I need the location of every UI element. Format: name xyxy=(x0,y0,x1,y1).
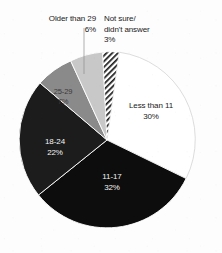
slice-label-not-sure-value: 3% xyxy=(104,35,184,46)
slice-label-less-than-11-value: 30% xyxy=(119,112,183,123)
slice-label-not-sure: Not sure/ didn't answer 3% xyxy=(104,14,184,46)
slice-label-not-sure-line2: didn't answer xyxy=(104,25,184,36)
slice-label-25-29: 25-29 7% xyxy=(43,87,83,106)
slice-label-not-sure-line1: Not sure/ xyxy=(104,14,136,23)
slice-label-11-17: 11-17 32% xyxy=(89,172,135,193)
slice-label-18-24-value: 22% xyxy=(32,148,78,159)
slice-label-less-than-11: Less than 11 30% xyxy=(119,101,183,122)
slice-label-25-29-name: 25-29 xyxy=(54,87,73,96)
pie-chart: Older than 29 6% Not sure/ didn't answer… xyxy=(0,0,222,253)
slice-label-older-than-29-name: Older than 29 xyxy=(49,14,96,23)
slice-label-older-than-29-value: 6% xyxy=(22,25,96,36)
slice-label-18-24: 18-24 22% xyxy=(32,137,78,158)
slice-label-less-than-11-name: Less than 11 xyxy=(129,101,173,110)
slice-label-older-than-29: Older than 29 6% xyxy=(22,14,96,35)
slice-label-25-29-value: 7% xyxy=(43,97,83,107)
slice-label-11-17-name: 11-17 xyxy=(102,172,121,181)
slice-label-11-17-value: 32% xyxy=(89,183,135,194)
slice-label-18-24-name: 18-24 xyxy=(45,137,65,146)
